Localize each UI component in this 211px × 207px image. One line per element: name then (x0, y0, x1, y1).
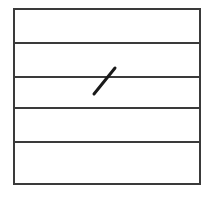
figure-canvas (0, 0, 211, 207)
ruled-box-figure (0, 0, 211, 207)
figure-background (0, 0, 211, 207)
